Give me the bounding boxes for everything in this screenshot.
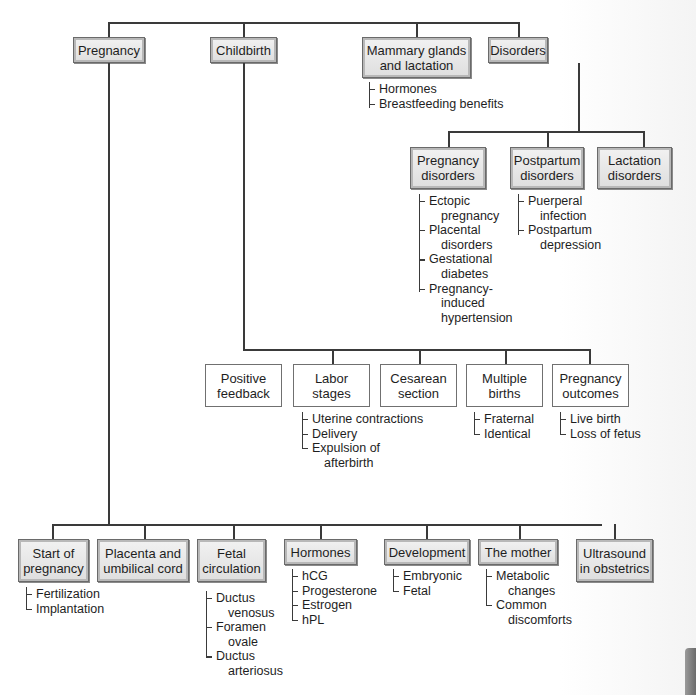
connector — [643, 131, 645, 147]
connector — [243, 22, 245, 38]
node-label: Start ofpregnancy — [23, 546, 84, 576]
list-item: Uterine contractions — [302, 412, 423, 427]
list-item: Fraternal — [474, 412, 534, 427]
pregnancy-disorders-list: Ectopicpregnancy Placentaldisorders Gest… — [419, 194, 513, 325]
node-label: Lactationdisorders — [608, 153, 661, 183]
list-item: Placentaldisorders — [419, 223, 513, 252]
top-connector — [108, 22, 519, 24]
connector — [578, 63, 580, 131]
background-fade — [560, 0, 696, 695]
list-item: Postpartumdepression — [518, 223, 601, 252]
connector — [419, 349, 421, 364]
node-pregnancy-disorders[interactable]: Pregnancydisorders — [410, 147, 486, 189]
connector — [518, 22, 520, 38]
node-postpartum-disorders[interactable]: Postpartumdisorders — [510, 147, 584, 189]
connector — [108, 63, 110, 525]
connector — [547, 131, 549, 147]
connector — [519, 524, 521, 539]
list-item: Delivery — [302, 427, 423, 442]
node-label: Development — [389, 545, 466, 560]
connector — [426, 524, 428, 539]
node-label: The mother — [485, 545, 551, 560]
list-item: Progesterone — [292, 584, 377, 599]
list-item: Embryonic — [393, 569, 462, 584]
list-item: Metabolicchanges — [486, 569, 572, 598]
mammary-list: Hormones Breastfeeding benefits — [369, 82, 503, 111]
list-item: Ductusarteriosus — [206, 649, 283, 678]
connector — [589, 349, 591, 364]
node-childbirth[interactable]: Childbirth — [210, 37, 277, 63]
list-item: hPL — [292, 613, 377, 628]
start-of-pregnancy-list: Fertilization Implantation — [26, 587, 104, 616]
list-item: Fetal — [393, 584, 462, 599]
node-lactation-disorders[interactable]: Lactationdisorders — [597, 147, 672, 189]
list-item: Fertilization — [26, 587, 104, 602]
connector — [233, 524, 235, 539]
connector — [448, 131, 450, 147]
node-label: Pregnancyoutcomes — [559, 371, 621, 401]
node-development[interactable]: Development — [384, 539, 470, 565]
node-pregnancy-outcomes[interactable]: Pregnancyoutcomes — [552, 364, 629, 407]
connector — [243, 349, 589, 351]
node-labor-stages[interactable]: Laborstages — [293, 364, 370, 407]
list-item: Loss of fetus — [560, 427, 641, 442]
node-label: Laborstages — [312, 371, 350, 401]
list-item: Estrogen — [292, 598, 377, 613]
page-tab-edge — [685, 648, 696, 695]
pregnancy-outcomes-list: Live birth Loss of fetus — [560, 412, 641, 441]
node-cesarean-section[interactable]: Cesareansection — [380, 364, 457, 407]
node-ultrasound[interactable]: Ultrasoundin obstetrics — [576, 539, 653, 582]
node-mammary-glands[interactable]: Mammary glandsand lactation — [362, 37, 471, 78]
list-item: Implantation — [26, 602, 104, 617]
node-positive-feedback[interactable]: Positivefeedback — [205, 364, 282, 407]
hormones-list: hCG Progesterone Estrogen hPL — [292, 569, 377, 627]
connector — [416, 22, 418, 38]
node-hormones[interactable]: Hormones — [284, 539, 357, 565]
list-item: Ductusvenosus — [206, 591, 283, 620]
list-item: Commondiscomforts — [486, 598, 572, 627]
list-item: Identical — [474, 427, 534, 442]
node-label: Positivefeedback — [217, 371, 270, 401]
node-label: Fetalcirculation — [202, 546, 261, 576]
node-label: Disorders — [490, 43, 546, 58]
list-item: Pregnancy-inducedhypertension — [419, 282, 513, 326]
node-label: Childbirth — [216, 43, 271, 58]
labor-stages-list: Uterine contractions Delivery Expulsion … — [302, 412, 423, 470]
connector — [144, 524, 146, 539]
list-item: Puerperalinfection — [518, 194, 601, 223]
node-placenta-umbilical-cord[interactable]: Placenta andumbilical cord — [97, 539, 189, 582]
node-multiple-births[interactable]: Multiplebirths — [466, 364, 543, 407]
connector — [332, 349, 334, 364]
node-pregnancy[interactable]: Pregnancy — [73, 37, 145, 63]
node-disorders[interactable]: Disorders — [488, 37, 548, 63]
node-label: Cesareansection — [390, 371, 446, 401]
node-label: Placenta andumbilical cord — [103, 546, 182, 576]
node-label: Multiplebirths — [482, 371, 527, 401]
node-label: Hormones — [291, 545, 351, 560]
node-fetal-circulation[interactable]: Fetalcirculation — [197, 539, 266, 582]
node-the-mother[interactable]: The mother — [478, 539, 558, 565]
list-item: hCG — [292, 569, 377, 584]
connector — [448, 131, 644, 133]
node-label: Pregnancy — [78, 43, 140, 58]
node-label: Postpartumdisorders — [514, 153, 580, 183]
list-item: Live birth — [560, 412, 641, 427]
connector — [108, 22, 110, 38]
list-item: Gestationaldiabetes — [419, 252, 513, 281]
the-mother-list: Metabolicchanges Commondiscomforts — [486, 569, 572, 627]
node-label: Mammary glandsand lactation — [367, 43, 467, 73]
fetal-circulation-list: Ductusvenosus Foramenovale Ductusarterio… — [206, 591, 283, 679]
node-label: Pregnancydisorders — [417, 153, 479, 183]
list-item: Ectopicpregnancy — [419, 194, 513, 223]
list-item: Hormones — [369, 82, 503, 97]
node-start-of-pregnancy[interactable]: Start ofpregnancy — [18, 539, 89, 582]
connector — [505, 349, 507, 364]
node-label: Ultrasoundin obstetrics — [580, 546, 649, 576]
list-item: Foramenovale — [206, 620, 283, 649]
development-list: Embryonic Fetal — [393, 569, 462, 598]
connector — [243, 63, 245, 350]
connector — [320, 524, 322, 539]
multiple-births-list: Fraternal Identical — [474, 412, 534, 441]
list-item: Breastfeeding benefits — [369, 97, 503, 112]
connector — [52, 524, 54, 539]
